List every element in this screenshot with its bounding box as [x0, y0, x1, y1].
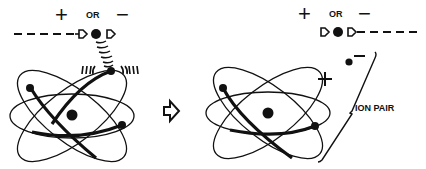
electron — [219, 84, 227, 92]
energy-transfer-waves — [96, 41, 113, 67]
particle-dot — [333, 27, 343, 37]
electron — [311, 122, 319, 130]
nucleus — [67, 110, 78, 121]
electron — [118, 121, 126, 129]
ion-pair-label: ION PAIR — [355, 103, 394, 113]
plus-sign-before: + — [55, 2, 68, 28]
small-arrow-icon — [348, 28, 356, 36]
incoming-particle-group — [14, 29, 138, 74]
minus-sign-before: − — [116, 2, 129, 28]
nucleus — [263, 108, 274, 119]
outgoing-particle-group — [321, 27, 417, 37]
electron — [107, 67, 115, 75]
minus-sign-after: − — [358, 1, 371, 27]
electron-track — [223, 88, 292, 158]
small-arrow-icon — [321, 28, 329, 36]
atom-after — [200, 52, 376, 169]
or-label-after: OR — [329, 9, 343, 19]
small-arrow-icon — [79, 30, 87, 38]
arrow-right-icon — [164, 101, 179, 121]
electron — [26, 84, 34, 92]
atom-before — [4, 55, 140, 169]
small-arrow-icon — [107, 30, 115, 38]
plus-sign-after: + — [298, 1, 311, 27]
electron-track — [230, 126, 315, 134]
or-label-before: OR — [86, 10, 100, 20]
ejected-electron — [345, 58, 352, 65]
particle-dot — [91, 29, 101, 39]
